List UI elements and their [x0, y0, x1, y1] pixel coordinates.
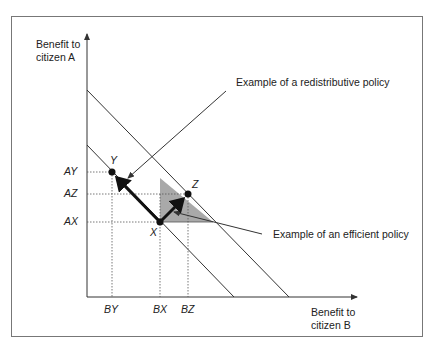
y-axis-label-line1: Benefit to: [36, 38, 80, 51]
efficient-label: Example of an efficient policy: [273, 228, 409, 241]
tick-ay: AY: [64, 165, 77, 178]
x-axis-label: Benefit to citizen B: [311, 306, 355, 332]
y-axis-label-line2: citizen A: [36, 51, 80, 64]
tick-ax: AX: [64, 215, 78, 228]
x-axis-label-line2: citizen B: [311, 319, 355, 332]
y-axis-label: Benefit to citizen A: [36, 38, 80, 64]
x-axis-label-line1: Benefit to: [311, 306, 355, 319]
tick-by: BY: [104, 303, 118, 316]
redistributive-pointer: [128, 91, 226, 178]
label-y: Y: [110, 154, 117, 167]
tick-bx: BX: [153, 303, 167, 316]
arrow-x-to-y: [117, 178, 160, 222]
point-z: [185, 191, 192, 198]
redistributive-label: Example of a redistributive policy: [236, 76, 390, 89]
point-y: [109, 169, 116, 176]
efficient-pointer: [174, 212, 262, 234]
label-x: X: [150, 226, 157, 239]
tick-bz: BZ: [181, 303, 194, 316]
label-z: Z: [192, 178, 198, 191]
point-x: [157, 219, 164, 226]
tick-az: AZ: [64, 187, 77, 200]
